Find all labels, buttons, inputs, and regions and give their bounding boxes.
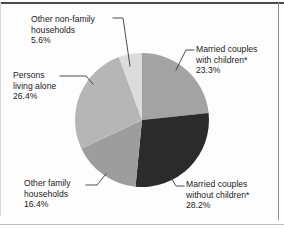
label-line-2: households <box>24 189 71 200</box>
label-line-1: Married couples <box>186 179 249 190</box>
slice-label-other-non-family-households: Other non-family households 5.6% <box>31 14 95 46</box>
label-line-2: with children* <box>196 55 257 66</box>
pie-chart-figure: Other non-family households 5.6% Persons… <box>0 0 284 229</box>
label-line-2: households <box>31 25 95 36</box>
label-percent: 28.2% <box>186 200 249 211</box>
slice-label-married-without-children: Married couples without children* 28.2% <box>186 179 249 211</box>
slice-label-persons-living-alone: Persons living alone 26.4% <box>13 70 56 102</box>
label-line-1: Other family <box>24 178 71 189</box>
label-percent: 23.3% <box>196 65 257 76</box>
label-line-1: Persons <box>13 70 56 81</box>
label-percent: 16.4% <box>24 199 71 210</box>
label-line-2: without children* <box>186 190 249 201</box>
label-line-2: living alone <box>13 81 56 92</box>
label-percent: 26.4% <box>13 91 56 102</box>
label-line-1: Other non-family <box>31 14 95 25</box>
slice-married-without-children[interactable] <box>135 113 209 187</box>
slice-label-other-family-households: Other family households 16.4% <box>24 178 71 210</box>
label-percent: 5.6% <box>31 35 95 46</box>
label-line-1: Married couples <box>196 44 257 55</box>
pie-slices <box>75 53 209 187</box>
leader-line-other-family-households <box>86 174 106 185</box>
slice-label-married-with-children: Married couples with children* 23.3% <box>196 44 257 76</box>
